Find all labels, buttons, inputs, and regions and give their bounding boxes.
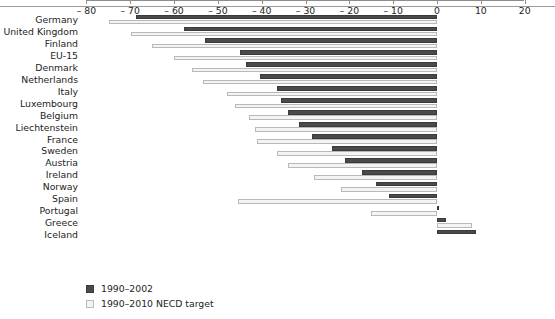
x-tick-label: – 30 [296, 5, 315, 16]
chart-row: Norway [0, 181, 555, 193]
category-label: Liechtenstein [0, 122, 78, 134]
x-tick-label: 20 [519, 5, 531, 16]
category-label: Italy [0, 86, 78, 98]
category-label: Norway [0, 181, 78, 193]
x-tick [218, 0, 219, 4]
bar-series-1990-2002 [362, 170, 437, 175]
bar-series-necd-target [249, 115, 437, 120]
x-tick-label: – 10 [383, 5, 402, 16]
x-tick-label: 10 [475, 5, 487, 16]
bar-series-necd-target [437, 223, 472, 228]
bar-series-necd-target [314, 175, 437, 180]
category-label: Belgium [0, 110, 78, 122]
x-tick [525, 0, 526, 4]
category-label: Netherlands [0, 74, 78, 86]
x-tick-label: – 70 [121, 5, 140, 16]
x-tick-label: – 20 [340, 5, 359, 16]
bar-series-1990-2002 [246, 62, 437, 67]
legend-label: 1990–2010 NECD target [101, 298, 214, 309]
bar-series-1990-2002 [332, 146, 437, 151]
chart-row: Denmark [0, 62, 555, 74]
chart-row: Sweden [0, 145, 555, 157]
legend-item: 1990–2010 NECD target [86, 296, 214, 311]
category-label: Ireland [0, 169, 78, 181]
bar-series-1990-2002 [437, 206, 439, 211]
x-tick [86, 0, 87, 4]
category-label: Sweden [0, 145, 78, 157]
x-tick [130, 0, 131, 4]
bar-series-1990-2002 [288, 110, 437, 115]
bar-series-1990-2002 [312, 134, 437, 139]
bar-series-1990-2002 [389, 194, 437, 199]
category-label: Denmark [0, 62, 78, 74]
x-tick [393, 0, 394, 4]
chart-row: Ireland [0, 169, 555, 181]
category-label: EU-15 [0, 50, 78, 62]
x-tick-label: – 60 [164, 5, 183, 16]
bar-series-necd-target [257, 139, 437, 144]
bar-series-necd-target [341, 187, 437, 192]
bar-series-necd-target [152, 44, 437, 49]
bar-series-necd-target [235, 104, 437, 109]
bar-series-necd-target [238, 199, 437, 204]
x-tick [481, 0, 482, 4]
category-label: Spain [0, 193, 78, 205]
bar-series-necd-target [255, 127, 437, 132]
chart-row: Iceland [0, 229, 555, 241]
chart-row: Portugal [0, 205, 555, 217]
legend-label: 1990–2002 [101, 283, 153, 294]
x-tick [349, 0, 350, 4]
bar-series-necd-target [288, 163, 437, 168]
chart-row: Greece [0, 217, 555, 229]
bar-series-1990-2002 [240, 50, 437, 55]
bar-series-1990-2002 [205, 38, 437, 43]
chart-row: Belgium [0, 110, 555, 122]
chart-row: France [0, 134, 555, 146]
chart-row: Finland [0, 38, 555, 50]
category-label: France [0, 134, 78, 146]
x-tick [174, 0, 175, 4]
category-label: Iceland [0, 229, 78, 241]
chart-figure: GermanyUnited KingdomFinlandEU-15Denmark… [0, 0, 555, 319]
bar-series-1990-2002 [277, 86, 437, 91]
chart-row: EU-15 [0, 50, 555, 62]
bar-series-1990-2002 [437, 218, 446, 223]
chart-row: Liechtenstein [0, 122, 555, 134]
x-tick [437, 0, 438, 4]
legend-swatch-icon [86, 300, 94, 308]
category-label: Finland [0, 38, 78, 50]
bar-series-1990-2002 [281, 98, 437, 103]
category-label: Portugal [0, 205, 78, 217]
x-tick-label: 0 [434, 5, 440, 16]
legend-item: 1990–2002 [86, 281, 214, 296]
category-label: Greece [0, 217, 78, 229]
bar-series-necd-target [192, 68, 437, 73]
bar-series-1990-2002 [260, 74, 437, 79]
bar-series-necd-target [227, 92, 437, 97]
bar-series-1990-2002 [376, 182, 437, 187]
chart-row: Italy [0, 86, 555, 98]
bar-series-1990-2002 [299, 122, 437, 127]
x-tick-label: – 50 [208, 5, 227, 16]
x-tick-label: – 40 [252, 5, 271, 16]
bar-series-necd-target [131, 32, 437, 37]
x-tick-label: – 80 [77, 5, 96, 16]
chart-row: Austria [0, 157, 555, 169]
bar-series-1990-2002 [437, 230, 476, 235]
x-axis: – 80– 70– 60– 50– 40– 30– 20– 1001020 % [0, 0, 555, 32]
bar-series-necd-target [277, 151, 437, 156]
category-label: Luxembourg [0, 98, 78, 110]
bar-series-1990-2002 [345, 158, 437, 163]
chart-row: Spain [0, 193, 555, 205]
bar-series-necd-target [174, 56, 437, 61]
x-tick [262, 0, 263, 4]
x-tick [306, 0, 307, 4]
plot-area: GermanyUnited KingdomFinlandEU-15Denmark… [0, 14, 555, 250]
chart-row: Netherlands [0, 74, 555, 86]
chart-row: Luxembourg [0, 98, 555, 110]
chart-legend: 1990–20021990–2010 NECD target [86, 281, 214, 311]
legend-swatch-icon [86, 285, 94, 293]
bar-series-necd-target [371, 211, 437, 216]
category-label: Austria [0, 157, 78, 169]
bar-series-necd-target [203, 80, 437, 85]
